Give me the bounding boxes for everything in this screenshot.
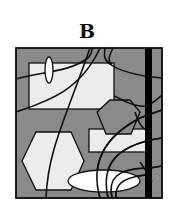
small-vertical-ellipse bbox=[45, 57, 53, 83]
bottom-ellipse bbox=[68, 170, 140, 192]
diagram-panel bbox=[0, 0, 174, 210]
